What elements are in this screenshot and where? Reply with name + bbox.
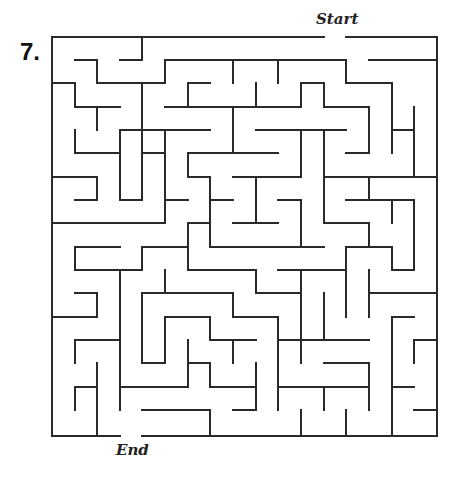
maze-grid[interactable] — [0, 0, 465, 487]
